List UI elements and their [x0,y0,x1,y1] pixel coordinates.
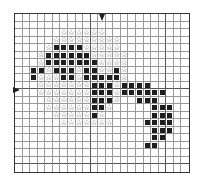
empty-cell [144,164,152,172]
empty-cell [83,134,91,142]
empty-cell [144,37,152,45]
empty-cell [166,164,174,172]
empty-cell [38,104,46,112]
empty-cell [98,127,106,135]
empty-cell [83,127,91,135]
empty-cell [144,74,152,82]
stitch-dark-square [166,127,174,135]
empty-cell [45,142,53,150]
empty-cell [53,119,61,127]
stitch-star-icon [68,37,76,45]
empty-cell [174,149,182,157]
empty-cell [181,127,189,135]
empty-cell [15,74,23,82]
stitch-dark-square [144,119,152,127]
stitch-dark-square [98,82,106,90]
empty-cell [23,104,31,112]
empty-cell [23,127,31,135]
empty-cell [45,22,53,30]
empty-cell [83,157,91,165]
empty-cell [68,142,76,150]
empty-cell [128,52,136,60]
empty-cell [121,127,129,135]
stitch-dark-square [53,52,61,60]
empty-cell [38,127,46,135]
empty-cell [15,14,23,22]
empty-cell [136,22,144,30]
empty-cell [38,149,46,157]
empty-cell [91,127,99,135]
empty-cell [106,22,114,30]
empty-cell [53,157,61,165]
empty-cell [151,52,159,60]
stitch-dark-square [136,82,144,90]
empty-cell [45,112,53,120]
empty-cell [106,127,114,135]
stitch-dark-square [91,97,99,105]
empty-cell [166,59,174,67]
empty-cell [53,134,61,142]
empty-cell [174,89,182,97]
empty-cell [121,22,129,30]
empty-cell [98,149,106,157]
empty-cell [68,149,76,157]
empty-cell [76,134,84,142]
empty-cell [53,22,61,30]
empty-cell [151,44,159,52]
empty-cell [113,14,121,22]
empty-cell [151,74,159,82]
empty-cell [23,97,31,105]
empty-cell [113,22,121,30]
empty-cell [23,82,31,90]
empty-cell [30,104,38,112]
empty-cell [23,164,31,172]
empty-cell [113,149,121,157]
empty-cell [76,149,84,157]
empty-cell [128,44,136,52]
empty-cell [181,52,189,60]
stitch-dark-square [151,142,159,150]
empty-cell [106,149,114,157]
empty-cell [83,14,91,22]
empty-cell [144,112,152,120]
empty-cell [181,29,189,37]
empty-cell [121,164,129,172]
empty-cell [15,164,23,172]
empty-cell [23,14,31,22]
stitch-dark-square [151,97,159,105]
stitch-dark-square [98,74,106,82]
empty-cell [181,44,189,52]
stitch-star-icon [68,119,76,127]
empty-cell [166,157,174,165]
stitch-dark-square [166,119,174,127]
empty-cell [128,104,136,112]
empty-cell [30,119,38,127]
empty-cell [128,22,136,30]
empty-cell [151,59,159,67]
empty-cell [128,149,136,157]
center-row-marker-arrow-icon [13,87,20,93]
empty-cell [174,37,182,45]
empty-cell [38,14,46,22]
empty-cell [136,44,144,52]
empty-cell [45,149,53,157]
empty-cell [23,119,31,127]
empty-cell [174,97,182,105]
empty-cell [15,157,23,165]
stitch-dark-square [68,44,76,52]
stitch-star-icon [45,44,53,52]
stitch-dark-square [151,89,159,97]
empty-cell [181,112,189,120]
empty-cell [136,59,144,67]
empty-cell [23,74,31,82]
empty-cell [151,149,159,157]
empty-cell [136,74,144,82]
empty-cell [151,157,159,165]
empty-cell [151,67,159,75]
empty-cell [136,29,144,37]
empty-cell [166,37,174,45]
empty-cell [113,119,121,127]
stitch-dark-square [91,104,99,112]
empty-cell [38,37,46,45]
empty-cell [113,157,121,165]
